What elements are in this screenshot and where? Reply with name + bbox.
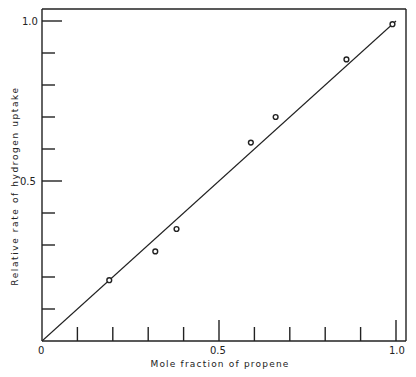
data-point bbox=[107, 278, 112, 283]
x-axis-ticks bbox=[77, 320, 396, 341]
chart: 0 0.5 1.0 0.5 1.0 Mole fraction of prope… bbox=[0, 0, 416, 377]
y-tick-label-mid: 0.5 bbox=[20, 176, 36, 187]
data-point bbox=[174, 227, 179, 232]
x-axis-title: Mole fraction of propene bbox=[150, 359, 289, 369]
y-axis-title: Relative rate of hydrogen uptake bbox=[10, 86, 20, 286]
y-tick-label-max: 1.0 bbox=[22, 16, 38, 27]
fit-line bbox=[42, 21, 396, 341]
data-point bbox=[153, 249, 158, 254]
x-tick-label-origin: 0 bbox=[38, 345, 44, 356]
data-point bbox=[390, 22, 395, 27]
x-tick-label-max: 1.0 bbox=[389, 345, 405, 356]
data-point bbox=[248, 140, 253, 145]
data-point bbox=[344, 57, 349, 62]
y-axis-ticks bbox=[42, 21, 62, 309]
data-point bbox=[273, 115, 278, 120]
x-tick-label-mid: 0.5 bbox=[210, 345, 226, 356]
